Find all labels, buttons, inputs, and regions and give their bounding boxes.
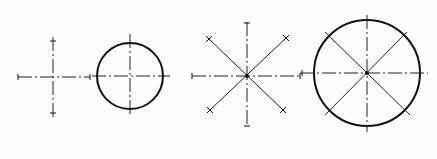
figure-eight-way-centerlines [192,22,302,127]
figure-circle-with-centerlines [92,34,170,117]
figure-circle-eight-way [300,15,428,132]
center-point [365,71,369,75]
diagram-canvas [0,0,437,159]
diagram-svg [0,0,437,159]
diagonal-line [210,37,287,110]
diagonal-line [208,38,283,110]
x-mark [280,107,286,113]
x-mark [207,107,213,113]
x-mark [283,35,289,41]
x-mark [206,36,212,42]
figure-cross-centerlines [18,37,90,118]
center-point [245,74,249,78]
